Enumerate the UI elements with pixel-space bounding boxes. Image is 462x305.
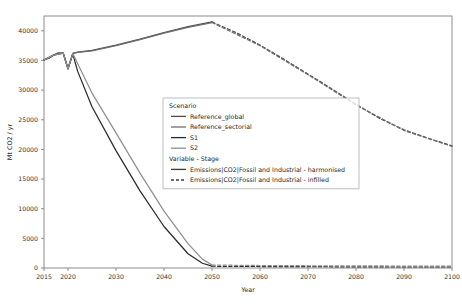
y-tick-label: 10000 [18, 205, 38, 212]
x-tick-label: 2020 [60, 273, 76, 280]
x-tick-label: 2050 [204, 273, 220, 280]
y-tick-label: 0 [34, 264, 38, 271]
chart-legend[interactable]: ScenarioReference_globalReference_sector… [163, 98, 359, 189]
legend-label-0-0[interactable]: Reference_global [190, 113, 244, 121]
legend-label-0-3[interactable]: S2 [190, 144, 198, 151]
legend-label-0-1[interactable]: Reference_sectorial [190, 123, 252, 131]
y-tick-label: 20000 [18, 146, 38, 153]
legend-label-1-1[interactable]: Emissions|CO2|Fossil and Industrial - in… [190, 176, 329, 184]
y-tick-label: 15000 [18, 175, 38, 182]
x-tick-label: 2060 [252, 273, 268, 280]
y-tick-label: 40000 [18, 27, 38, 34]
series-reference-sectorial-harmonised [44, 23, 212, 69]
x-tick-label: 2015 [36, 273, 52, 280]
legend-group-title-1: Variable - Stage [169, 155, 219, 163]
x-axis-title: Year [240, 286, 255, 294]
legend-label-1-0[interactable]: Emissions|CO2|Fossil and Industrial - ha… [190, 166, 345, 174]
y-tick-label: 5000 [22, 235, 38, 242]
series-s2-infilled [212, 265, 452, 266]
x-tick-label: 2030 [108, 273, 124, 280]
y-tick-label: 30000 [18, 86, 38, 93]
emissions-line-chart: 0500010000150002000025000300003500040000… [0, 0, 462, 305]
y-tick-label: 25000 [18, 116, 38, 123]
x-tick-label: 2040 [156, 273, 172, 280]
x-tick-label: 2080 [348, 273, 364, 280]
x-tick-label: 2070 [300, 273, 316, 280]
chart-figure: 0500010000150002000025000300003500040000… [0, 0, 462, 305]
x-tick-label: 2100 [444, 273, 460, 280]
series-reference-global-harmonised [44, 22, 212, 69]
x-tick-label: 2090 [396, 273, 412, 280]
y-axis-title: Mt CO2 / yr [6, 124, 14, 161]
legend-label-0-2[interactable]: S1 [190, 134, 198, 141]
legend-group-title-0: Scenario [169, 102, 197, 109]
y-tick-label: 35000 [18, 57, 38, 64]
